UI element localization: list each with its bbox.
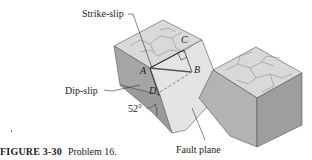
right-block [199, 47, 302, 147]
strike-slip-label: Strike-slip [82, 9, 124, 19]
point-d-label: D [149, 86, 156, 96]
fault-plane-label: Fault plane [176, 145, 221, 155]
figure-number: FIGURE 3-30 [0, 146, 62, 157]
stray-mark [11, 130, 12, 132]
point-a-label: A [140, 66, 146, 76]
point-b-label: B [194, 65, 200, 75]
dip-angle-label: 52° [128, 104, 142, 114]
figure-caption: FIGURE 3-30Problem 16. [0, 146, 117, 157]
fault-block-diagram [0, 0, 312, 160]
caption-text: Problem 16. [68, 146, 117, 157]
dip-slip-label: Dip-slip [65, 86, 98, 96]
point-c-label: C [181, 35, 188, 45]
